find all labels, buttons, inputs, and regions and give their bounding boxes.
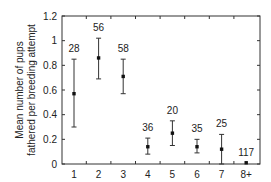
data-point — [122, 75, 125, 78]
data-point — [195, 145, 198, 148]
plot-frame — [62, 16, 260, 164]
x-tick-label: 7 — [219, 169, 225, 180]
x-tick-label: 3 — [120, 169, 126, 180]
sample-size-label: 56 — [93, 22, 105, 33]
y-tick-label: 0 — [51, 159, 57, 170]
sample-size-label: 35 — [191, 123, 203, 134]
y-axis-title-line1: Mean number of pups — [14, 41, 25, 138]
y-tick-label: 1.2 — [43, 11, 57, 22]
y-tick-label: 1 — [51, 35, 57, 46]
x-tick-label: 1 — [71, 169, 77, 180]
data-point — [245, 161, 248, 164]
data-point — [72, 92, 75, 95]
y-axis-title-line2: fathered per breeding attempt — [26, 24, 37, 156]
sample-size-label: 117 — [238, 147, 254, 158]
y-tick-label: 0.2 — [43, 134, 57, 145]
data-point — [171, 131, 174, 134]
x-tick-label: 2 — [96, 169, 102, 180]
x-tick-label: 6 — [194, 169, 200, 180]
sample-size-label: 20 — [167, 105, 179, 116]
data-point — [146, 145, 149, 148]
sample-size-label: 36 — [142, 122, 154, 133]
data-point — [97, 56, 100, 59]
sample-size-label: 28 — [68, 43, 80, 54]
sample-size-label: 58 — [118, 43, 130, 54]
y-tick-label: 0.6 — [43, 85, 57, 96]
chart: 00.20.40.60.811.212345678+28565836203525… — [0, 0, 271, 182]
data-point — [220, 148, 223, 151]
y-tick-label: 0.8 — [43, 60, 57, 71]
x-tick-label: 5 — [170, 169, 176, 180]
x-tick-label: 8+ — [240, 169, 252, 180]
sample-size-label: 25 — [216, 118, 228, 129]
x-tick-label: 4 — [145, 169, 151, 180]
y-tick-label: 0.4 — [43, 109, 57, 120]
